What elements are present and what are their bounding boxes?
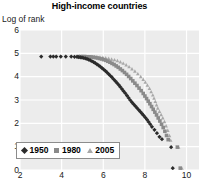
x-tick-label: 6 <box>101 171 106 180</box>
x-tick-label: 4 <box>59 171 64 180</box>
legend-label: 2005 <box>95 146 114 155</box>
chart-title: High-income countries <box>0 1 199 12</box>
legend-label: 1950 <box>30 146 49 155</box>
y-tick-label: 6 <box>1 26 19 35</box>
y-axis-label: Log of rank <box>2 14 45 24</box>
x-tick-label: 10 <box>182 171 191 180</box>
legend-item-1950[interactable]: 1950 <box>22 146 48 155</box>
legend-label: 1980 <box>62 146 81 155</box>
y-tick-label: 4 <box>1 72 19 81</box>
square-marker-icon <box>54 148 59 153</box>
y-tick-label: 5 <box>1 49 19 58</box>
legend-item-1980[interactable]: 1980 <box>54 146 80 155</box>
y-tick-label: 2 <box>1 119 19 128</box>
triangle-marker-icon <box>87 148 93 153</box>
y-tick-label: 0 <box>1 166 19 175</box>
x-tick-label: 2 <box>18 171 23 180</box>
legend-item-2005[interactable]: 2005 <box>87 146 114 155</box>
y-tick-label: 3 <box>1 96 19 105</box>
x-axis-ticks: 246810 <box>20 170 199 186</box>
chart-legend: 195019802005 <box>16 142 120 159</box>
diamond-marker-icon <box>21 147 28 154</box>
x-tick-label: 8 <box>143 171 148 180</box>
chart-container: High-income countries Log of rank 012345… <box>0 0 199 187</box>
